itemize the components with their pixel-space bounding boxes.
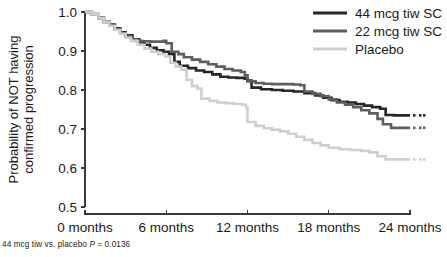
- legend-label: 44 mcg tiw SC: [355, 6, 442, 21]
- y-axis-title-line: confirmed progression: [21, 45, 36, 174]
- y-tick-label: 0.9: [58, 44, 77, 59]
- x-tick-label: 0 months: [57, 220, 113, 235]
- y-tick-label: 0.5: [58, 200, 77, 215]
- chart-canvas: 0.50.60.70.80.91.0 0 months6 months12 mo…: [0, 0, 447, 257]
- legend-label: Placebo: [355, 42, 404, 57]
- x-tick-label: 24 months: [378, 220, 441, 235]
- y-axis-title-line: Probability of NOT having: [6, 36, 21, 184]
- x-tick-label: 12 months: [216, 220, 279, 235]
- y-axis-ticks: 0.50.60.70.80.91.0: [58, 5, 85, 215]
- chart-legend: 44 mcg tiw SC22 mcg tiw SCPlacebo: [313, 6, 442, 57]
- y-axis-title: Probability of NOT havingconfirmed progr…: [6, 36, 36, 184]
- kaplan-meier-figure: 0.50.60.70.80.91.0 0 months6 months12 mo…: [0, 0, 447, 257]
- x-tick-label: 6 months: [138, 220, 194, 235]
- legend-label: 22 mcg tiw SC: [355, 24, 442, 39]
- p-value-footnote: 44 mcg tiw vs. placebo P = 0.0136: [2, 240, 130, 249]
- y-tick-label: 0.8: [58, 83, 77, 98]
- x-tick-label: 18 months: [297, 220, 360, 235]
- y-tick-label: 0.7: [58, 122, 77, 137]
- y-tick-label: 1.0: [58, 5, 77, 20]
- y-tick-label: 0.6: [58, 161, 77, 176]
